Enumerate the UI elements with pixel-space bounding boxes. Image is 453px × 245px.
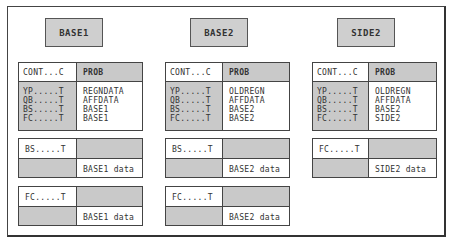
values-column: REGNDATA AFFDATA BASE1 BASE1 xyxy=(77,82,142,130)
subtable-key: FC.....T xyxy=(19,187,77,207)
subtable-empty xyxy=(19,159,77,177)
subtable-data: BASE1 data xyxy=(77,207,142,225)
base2-main-table: CONT...C PROB YP.....T QB.....T BS.....T… xyxy=(165,62,290,131)
base1-subtable-fc: FC.....T BASE1 data xyxy=(18,186,143,226)
values-column: OLDREGN AFFDATA BASE2 BASE2 xyxy=(223,82,289,130)
base1-title: BASE1 xyxy=(59,28,89,38)
base2-subtable-fc: FC.....T BASE2 data xyxy=(165,186,290,226)
row-value: BASE2 xyxy=(375,105,436,114)
row-value: OLDREGN xyxy=(229,87,289,96)
subtable-key: FC.....T xyxy=(166,187,223,207)
row-value: BASE2 xyxy=(229,114,289,123)
keys-column: YP.....T QB.....T BS.....T FC.....T xyxy=(166,82,223,130)
row-value: REGNDATA xyxy=(83,87,142,96)
values-column: OLDREGN AFFDATA BASE2 SIDE2 xyxy=(369,82,436,130)
row-value: OLDREGN xyxy=(375,87,436,96)
subtable-empty xyxy=(313,159,369,177)
subtable-data: BASE2 data xyxy=(223,207,289,225)
row-value: AFFDATA xyxy=(83,96,142,105)
subtable-empty xyxy=(166,207,223,225)
row-value: AFFDATA xyxy=(375,96,436,105)
row-key: YP.....T xyxy=(317,87,368,96)
subtable-data: SIDE2 data xyxy=(369,159,436,177)
header-prob: PROB xyxy=(223,63,289,82)
row-value: BASE1 xyxy=(83,105,142,114)
base2-label-box: BASE2 xyxy=(190,18,248,47)
subtable-empty xyxy=(223,139,289,159)
subtable-empty xyxy=(19,207,77,225)
keys-column: YP.....T QB.....T BS.....T FC.....T xyxy=(313,82,369,130)
side2-main-table: CONT...C PROB YP.....T QB.....T BS.....T… xyxy=(312,62,437,131)
row-value: SIDE2 xyxy=(375,114,436,123)
subtable-key: FC.....T xyxy=(313,139,369,159)
row-value: BASE1 xyxy=(83,114,142,123)
base1-subtable-bs: BS.....T BASE1 data xyxy=(18,138,143,178)
base2-subtable-bs: BS.....T BASE2 data xyxy=(165,138,290,178)
row-key: FC.....T xyxy=(23,114,76,123)
header-prob: PROB xyxy=(369,63,436,82)
row-key: QB.....T xyxy=(317,96,368,105)
row-value: AFFDATA xyxy=(229,96,289,105)
row-key: YP.....T xyxy=(23,87,76,96)
base1-main-table: CONT...C PROB YP.....T QB.....T BS.....T… xyxy=(18,62,143,131)
header-prob: PROB xyxy=(77,63,142,82)
keys-column: YP.....T QB.....T BS.....T FC.....T xyxy=(19,82,77,130)
header-cont: CONT...C xyxy=(313,63,369,82)
header-cont: CONT...C xyxy=(166,63,223,82)
header-cont: CONT...C xyxy=(19,63,77,82)
base2-title: BASE2 xyxy=(204,28,234,38)
row-key: QB.....T xyxy=(170,96,222,105)
subtable-empty xyxy=(77,139,142,159)
side2-title: SIDE2 xyxy=(351,28,381,38)
side2-label-box: SIDE2 xyxy=(337,18,395,47)
subtable-key: BS.....T xyxy=(19,139,77,159)
base1-label-box: BASE1 xyxy=(45,18,103,47)
row-key: BS.....T xyxy=(317,105,368,114)
subtable-empty xyxy=(223,187,289,207)
subtable-key: BS.....T xyxy=(166,139,223,159)
subtable-empty xyxy=(77,187,142,207)
row-value: BASE2 xyxy=(229,105,289,114)
row-key: BS.....T xyxy=(23,105,76,114)
subtable-data: BASE1 data xyxy=(77,159,142,177)
subtable-empty xyxy=(166,159,223,177)
row-key: FC.....T xyxy=(170,114,222,123)
row-key: FC.....T xyxy=(317,114,368,123)
row-key: QB.....T xyxy=(23,96,76,105)
subtable-data: BASE2 data xyxy=(223,159,289,177)
side2-subtable-fc: FC.....T SIDE2 data xyxy=(312,138,437,178)
subtable-empty xyxy=(369,139,436,159)
row-key: YP.....T xyxy=(170,87,222,96)
row-key: BS.....T xyxy=(170,105,222,114)
